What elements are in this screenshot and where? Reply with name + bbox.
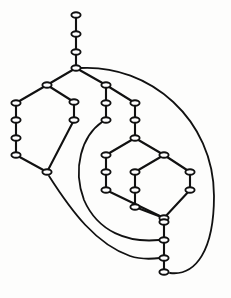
graph-node[interactable] (130, 135, 139, 140)
graph-edge (164, 190, 190, 218)
graph-node[interactable] (101, 82, 110, 87)
graph-node[interactable] (159, 269, 168, 274)
graph-node[interactable] (130, 169, 139, 174)
graph-node[interactable] (130, 187, 139, 192)
graph-node[interactable] (159, 237, 168, 242)
diagram-canvas (0, 0, 231, 298)
graph-node[interactable] (42, 169, 51, 174)
graph-node[interactable] (101, 152, 110, 157)
graph-node[interactable] (69, 117, 78, 122)
graph-node[interactable] (185, 169, 194, 174)
graph-edge (76, 68, 106, 85)
graph-edge-curved (79, 122, 159, 240)
graph-node[interactable] (101, 100, 110, 105)
graph-node[interactable] (71, 12, 80, 17)
graph-node[interactable] (159, 152, 168, 157)
edge-layer (16, 15, 190, 272)
graph-node[interactable] (42, 82, 51, 87)
graph-node[interactable] (71, 65, 80, 70)
graph-node[interactable] (11, 152, 20, 157)
graph-node[interactable] (71, 31, 80, 36)
graph-edge (47, 68, 76, 85)
graph-edge (47, 120, 74, 172)
graph-node[interactable] (11, 117, 20, 122)
graph-node[interactable] (11, 100, 20, 105)
graph-node[interactable] (101, 169, 110, 174)
graph-node[interactable] (71, 49, 80, 54)
graph-edge (47, 85, 74, 102)
graph-node[interactable] (101, 187, 110, 192)
graph-edge (106, 85, 135, 103)
graph-node[interactable] (11, 135, 20, 140)
node-link-diagram (0, 0, 231, 298)
graph-edge (135, 155, 164, 172)
graph-edge (135, 138, 164, 155)
graph-edge (16, 155, 47, 172)
graph-node[interactable] (130, 117, 139, 122)
graph-node[interactable] (159, 219, 168, 224)
graph-node[interactable] (101, 117, 110, 122)
graph-edge (16, 85, 47, 103)
graph-node[interactable] (69, 99, 78, 104)
graph-node[interactable] (159, 255, 168, 260)
graph-edge (106, 138, 135, 155)
graph-node[interactable] (130, 100, 139, 105)
graph-node[interactable] (185, 187, 194, 192)
node-layer (11, 12, 194, 274)
graph-node[interactable] (130, 204, 139, 209)
